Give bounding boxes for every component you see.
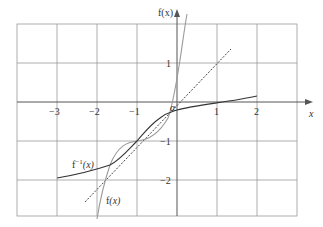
- tick-x-minus-1: −1: [129, 106, 140, 117]
- tick-x-1: 1: [214, 106, 219, 117]
- f-inverse-label: f−1(x): [72, 158, 95, 171]
- angle-alpha-label: α: [170, 102, 176, 113]
- tick-y-minus-1: −1: [160, 136, 171, 147]
- tick-y-minus-2: −2: [160, 175, 171, 186]
- x-axis-label: x: [308, 108, 314, 119]
- x-axis-arrow-icon: [305, 99, 313, 105]
- y-axis-arrow-icon: [174, 9, 180, 17]
- tick-y-1: 1: [166, 58, 171, 69]
- tick-x-2: 2: [254, 106, 259, 117]
- identity-line: [85, 49, 231, 202]
- tick-x-minus-3: −3: [49, 106, 60, 117]
- f-curve: [97, 14, 187, 219]
- tick-x-minus-2: −2: [89, 106, 100, 117]
- f-label: f(x): [106, 195, 121, 207]
- function-inverse-chart: f(x) x −3 −2 −1 1 2 1 −1 −2 α f−1(x) f(x…: [0, 0, 323, 227]
- y-axis-label: f(x): [158, 7, 173, 19]
